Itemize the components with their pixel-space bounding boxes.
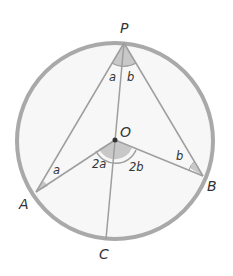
label-P: P — [120, 20, 129, 36]
label-O: O — [120, 124, 131, 140]
angle-label-P-right: b — [127, 70, 134, 84]
angle-label-O-left: 2a — [92, 157, 106, 171]
circle-theorem-diagram: P O A B C a b a b 2a 2b — [0, 0, 233, 276]
angle-label-A: a — [53, 163, 60, 177]
label-B: B — [207, 178, 217, 194]
angle-label-O-right: 2b — [129, 160, 144, 174]
angle-label-P-left: a — [109, 70, 116, 84]
label-A: A — [18, 196, 29, 212]
label-C: C — [99, 246, 109, 262]
center-point-O — [113, 138, 118, 143]
angle-label-B: b — [176, 149, 183, 163]
